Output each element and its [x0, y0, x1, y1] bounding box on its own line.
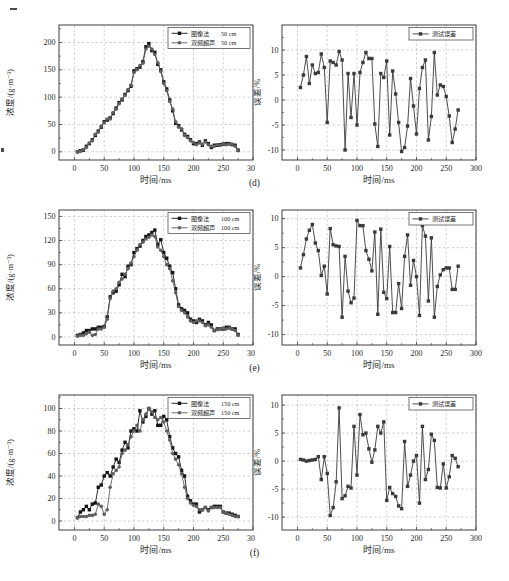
svg-text:100: 100 [128, 164, 140, 173]
svg-text:0: 0 [295, 534, 299, 543]
subplot-label-d: (d) [0, 178, 509, 188]
svg-text:5: 5 [275, 243, 279, 252]
svg-text:双频超声: 双频超声 [191, 224, 215, 232]
svg-text:-10: -10 [268, 146, 279, 155]
svg-text:50: 50 [323, 349, 331, 358]
svg-text:50 cm: 50 cm [221, 30, 236, 37]
svg-text:150: 150 [158, 164, 170, 173]
svg-text:300: 300 [470, 164, 482, 173]
svg-text:0: 0 [52, 517, 56, 526]
svg-text:0: 0 [72, 534, 76, 543]
svg-text:-5: -5 [272, 121, 279, 130]
svg-text:图像法: 图像法 [191, 400, 209, 408]
svg-text:0: 0 [72, 349, 76, 358]
svg-text:250: 250 [217, 164, 229, 173]
svg-text:150: 150 [44, 65, 56, 74]
svg-text:浓度/(g·m⁻³): 浓度/(g·m⁻³) [5, 439, 15, 486]
svg-text:150: 150 [381, 534, 393, 543]
svg-text:150: 150 [44, 212, 56, 221]
svg-text:50: 50 [100, 534, 108, 543]
svg-text:250: 250 [440, 534, 452, 543]
chart-f-concentration: 050100150200250300020406080100时间/ms浓度/(g… [0, 385, 255, 557]
svg-text:浓度/(g·m⁻³): 浓度/(g·m⁻³) [5, 254, 15, 301]
svg-text:90: 90 [48, 260, 56, 269]
svg-text:测试误差: 测试误差 [432, 400, 456, 408]
svg-text:0: 0 [52, 333, 56, 342]
chart-d-concentration: 050100150200250300050100150200时间/ms浓度/(g… [0, 15, 255, 187]
figure-panel: 050100150200250300050100150200时间/ms浓度/(g… [0, 0, 509, 581]
svg-text:50 cm: 50 cm [221, 39, 236, 46]
svg-text:50: 50 [100, 164, 108, 173]
svg-text:60: 60 [48, 449, 56, 458]
svg-text:双频超声: 双频超声 [191, 409, 215, 417]
svg-text:40: 40 [48, 472, 56, 481]
svg-text:300: 300 [470, 349, 482, 358]
svg-text:150: 150 [381, 349, 393, 358]
svg-text:10: 10 [271, 214, 279, 223]
svg-text:100: 100 [128, 534, 140, 543]
scan-artifact-mark [10, 8, 17, 10]
svg-text:100: 100 [351, 534, 363, 543]
chart-e-error: 050100150200250300-10-50510时间/ms误差/%测试误差 [254, 200, 509, 372]
svg-text:120: 120 [44, 236, 56, 245]
svg-text:50: 50 [48, 120, 56, 129]
svg-text:0: 0 [275, 272, 279, 281]
svg-text:250: 250 [217, 349, 229, 358]
svg-text:200: 200 [410, 349, 422, 358]
svg-text:250: 250 [440, 164, 452, 173]
svg-text:测试误差: 测试误差 [432, 215, 456, 223]
svg-text:-10: -10 [268, 513, 279, 522]
svg-text:误差/%: 误差/% [254, 449, 262, 476]
svg-text:60: 60 [48, 284, 56, 293]
svg-text:100: 100 [351, 349, 363, 358]
svg-text:0: 0 [72, 164, 76, 173]
svg-text:0: 0 [295, 349, 299, 358]
svg-text:图像法: 图像法 [191, 30, 209, 38]
svg-text:误差/%: 误差/% [254, 79, 262, 106]
svg-text:80: 80 [48, 427, 56, 436]
svg-text:100 cm: 100 cm [221, 215, 240, 222]
svg-text:150 cm: 150 cm [221, 409, 240, 416]
svg-text:50: 50 [323, 164, 331, 173]
svg-text:200: 200 [410, 534, 422, 543]
svg-text:100 cm: 100 cm [221, 224, 240, 231]
svg-text:0: 0 [275, 96, 279, 105]
svg-text:浓度/(g·m⁻³): 浓度/(g·m⁻³) [5, 69, 15, 116]
svg-text:100: 100 [44, 93, 56, 102]
svg-text:100: 100 [44, 404, 56, 413]
svg-text:双频超声: 双频超声 [191, 39, 215, 47]
svg-text:-5: -5 [272, 485, 279, 494]
subplot-label-e: (e) [0, 363, 509, 373]
svg-text:100: 100 [351, 164, 363, 173]
svg-text:0: 0 [295, 164, 299, 173]
svg-text:0: 0 [275, 457, 279, 466]
chart-d-error: 050100150200250300-10-50510时间/ms误差/%测试误差 [254, 15, 509, 187]
svg-text:150: 150 [158, 534, 170, 543]
svg-text:50: 50 [323, 534, 331, 543]
svg-text:150: 150 [381, 164, 393, 173]
chart-f-error: 050100150200250300-10-50510时间/ms误差/%测试误差 [254, 385, 509, 557]
svg-text:200: 200 [187, 349, 199, 358]
svg-text:150 cm: 150 cm [221, 400, 240, 407]
svg-text:-5: -5 [272, 301, 279, 310]
svg-text:20: 20 [48, 494, 56, 503]
svg-text:0: 0 [52, 147, 56, 156]
svg-text:200: 200 [410, 164, 422, 173]
svg-text:50: 50 [100, 349, 108, 358]
svg-text:-10: -10 [268, 330, 279, 339]
svg-text:10: 10 [271, 401, 279, 410]
svg-text:200: 200 [44, 38, 56, 47]
svg-text:200: 200 [187, 164, 199, 173]
svg-text:5: 5 [275, 429, 279, 438]
svg-text:5: 5 [275, 71, 279, 80]
svg-text:误差/%: 误差/% [254, 264, 262, 291]
svg-text:250: 250 [217, 534, 229, 543]
svg-text:300: 300 [470, 534, 482, 543]
svg-text:测试误差: 测试误差 [432, 30, 456, 38]
chart-e-concentration: 0501001502002503000306090120150时间/ms浓度/(… [0, 200, 255, 372]
svg-text:200: 200 [187, 534, 199, 543]
svg-text:图像法: 图像法 [191, 215, 209, 223]
svg-text:30: 30 [48, 308, 56, 317]
subplot-label-f: (f) [0, 548, 509, 558]
svg-text:250: 250 [440, 349, 452, 358]
